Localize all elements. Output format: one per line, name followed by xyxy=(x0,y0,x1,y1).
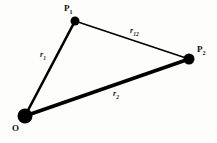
vertex-label-P1-subscript: 1 xyxy=(70,9,73,15)
vertex-dot-O xyxy=(18,109,33,124)
diagram-canvas xyxy=(0,0,217,143)
vertex-label-P2: P2 xyxy=(197,45,206,56)
vector-diagram-figure: P1 P2 O r1 r12 r2 xyxy=(0,0,217,143)
vertex-dot-P2 xyxy=(184,54,195,65)
edge-label-r12-subscript: 12 xyxy=(133,31,139,37)
vertex-label-P1: P1 xyxy=(64,4,73,15)
edge-label-r1: r1 xyxy=(40,51,46,61)
vertex-dot-P1 xyxy=(71,17,80,26)
vertex-label-O-base: O xyxy=(12,123,19,133)
vertex-label-O: O xyxy=(12,124,19,133)
edge-label-r1-subscript: 1 xyxy=(43,55,46,61)
edge-label-r12: r12 xyxy=(130,27,139,37)
vertex-label-P2-subscript: 2 xyxy=(203,50,206,56)
edge-label-r2-subscript: 2 xyxy=(116,94,119,100)
edge-label-r2: r2 xyxy=(113,90,119,100)
